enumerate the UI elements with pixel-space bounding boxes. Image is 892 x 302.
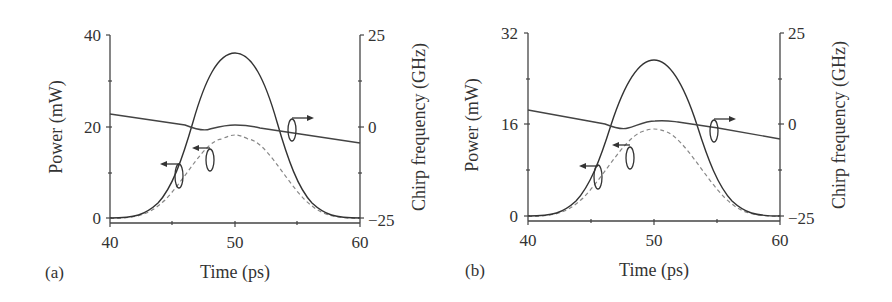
output-power-curve: [110, 53, 360, 218]
x-tick-label: 40: [520, 231, 537, 250]
figure: 40 20 0 25 0 −25 40 50 60 Time (ps) Powe…: [0, 0, 892, 302]
y2-tick-label: 0: [368, 118, 377, 137]
y-axis-title: Power (mW): [462, 78, 483, 171]
panel-a: 40 20 0 25 0 −25 40 50 60 Time (ps) Powe…: [45, 26, 430, 283]
x-axis-title: Time (ps): [619, 260, 689, 281]
x-tick-label: 60: [772, 231, 789, 250]
x-tick-label: 40: [102, 233, 119, 252]
x-tick-label: 60: [352, 233, 369, 252]
y2-tick-label: 25: [788, 24, 805, 43]
y2-axis-title: Chirp frequency (GHz): [409, 43, 430, 211]
chirp-frequency-curve: [528, 110, 780, 139]
arrowhead-icon: [160, 161, 167, 167]
input-power-curve: [110, 135, 360, 219]
marker-ellipse-icon: [288, 119, 296, 141]
y2-tick-label: 25: [368, 26, 385, 45]
panel-label: (b): [465, 261, 485, 280]
marker-ellipse-icon: [710, 120, 718, 142]
x-tick-label: 50: [646, 231, 663, 250]
y-tick-label: 0: [510, 207, 519, 226]
arrowhead-icon: [612, 142, 619, 148]
y-tick-label: 16: [501, 115, 518, 134]
y-tick-label: 32: [501, 24, 518, 43]
arrowhead-icon: [579, 163, 586, 169]
arrowhead-icon: [192, 145, 199, 151]
panel-label: (a): [45, 263, 64, 282]
marker-ellipse-icon: [626, 147, 634, 169]
arrowhead-icon: [729, 116, 736, 122]
input-power-curve: [528, 129, 780, 217]
arrowhead-icon: [307, 115, 314, 121]
panel-b: 32 16 0 25 0 −25 40 50 60 Time (ps) Powe…: [462, 24, 850, 281]
y2-tick-label: 0: [788, 115, 797, 134]
y-tick-label: 40: [84, 26, 101, 45]
output-power-curve: [528, 60, 780, 216]
x-tick-label: 50: [227, 233, 244, 252]
y2-tick-label: −25: [788, 209, 815, 228]
chirp-frequency-curve: [110, 114, 360, 143]
y2-tick-label: −25: [368, 211, 395, 230]
marker-ellipse-icon: [206, 149, 214, 171]
y-tick-label: 0: [93, 209, 102, 228]
y-axis-title: Power (mW): [46, 80, 67, 173]
x-axis-title: Time (ps): [200, 262, 270, 283]
y-tick-label: 20: [84, 118, 101, 137]
y2-axis-title: Chirp frequency (GHz): [829, 41, 850, 209]
